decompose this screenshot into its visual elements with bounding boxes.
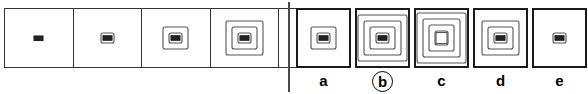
option-c-ring-1: [435, 31, 448, 45]
sequence-cell-3-figure: [161, 25, 190, 51]
option-a-box[interactable]: [296, 8, 351, 68]
answer-options: abcde: [296, 8, 584, 92]
option-c-core-square: [436, 33, 447, 44]
option-a-label: a: [311, 71, 337, 91]
sequence-cell-2-figure: [99, 31, 116, 45]
sequence-cell-3: [142, 9, 211, 67]
option-d-label: d: [488, 71, 514, 91]
option-e-core-dash: [555, 36, 564, 41]
option-c[interactable]: c: [414, 8, 469, 92]
panel-divider: [288, 2, 290, 92]
option-e-box[interactable]: [532, 8, 587, 68]
sequence-cell-4-figure: [224, 19, 265, 57]
option-a[interactable]: a: [296, 8, 351, 92]
option-a-core-dash: [319, 36, 328, 41]
option-c-ring-2: [429, 25, 454, 51]
matrix-reasoning-puzzle: abcde: [0, 0, 588, 94]
sequence-cell-2-core-dash: [103, 36, 112, 41]
option-c-label: c: [429, 71, 455, 91]
option-b[interactable]: b: [355, 8, 410, 92]
sequence-cell-4: [211, 9, 280, 67]
option-e[interactable]: e: [532, 8, 587, 92]
sequence-cell-3-core-dash: [171, 36, 180, 41]
option-d-figure: [480, 19, 521, 57]
option-d-core-dash: [496, 36, 505, 41]
option-b-label-selected: b: [372, 71, 393, 92]
sequence-cell-1-figure: [32, 34, 45, 43]
option-e-label: e: [547, 71, 573, 91]
sequence-cell-2: [74, 9, 143, 67]
sequence-cell-4-core-dash: [240, 36, 249, 41]
sequence-cell-1: [5, 9, 74, 67]
option-c-box[interactable]: [414, 8, 469, 68]
option-a-figure: [309, 25, 338, 51]
option-b-core-dash: [378, 36, 387, 41]
option-b-box[interactable]: [355, 8, 410, 68]
option-c-figure: [415, 11, 468, 65]
option-d[interactable]: d: [473, 8, 528, 92]
option-c-ring-4: [417, 13, 466, 63]
sequence-cell-1-core-dash: [34, 36, 43, 41]
option-b-figure: [356, 13, 409, 63]
option-e-figure: [551, 31, 568, 45]
option-d-box[interactable]: [473, 8, 528, 68]
